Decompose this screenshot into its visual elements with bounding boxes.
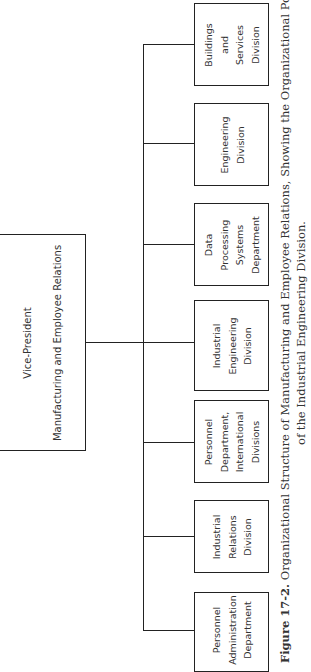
data-processing-systems-department-text: Data Processing Systems Department — [201, 216, 263, 274]
box-line: Processing — [216, 216, 232, 274]
branch-line-engineering — [143, 143, 194, 144]
box-line: Personnel — [201, 411, 217, 472]
box-line: Industrial — [208, 514, 224, 559]
branch-line-data-processing — [143, 244, 194, 245]
box-line: Services — [232, 23, 248, 67]
figure-label: Figure 17-2. — [278, 584, 292, 663]
branch-line-personnel-administration — [143, 630, 194, 631]
industrial-engineering-division-text: Industrial Engineering Division — [208, 317, 255, 374]
caption-line-1: Figure 17-2. Organizational Structure of… — [277, 3, 293, 663]
personnel-administration-department-box: Personnel Administration Department — [194, 592, 269, 672]
vice-president-text: Vice-President Manufacturing and Employe… — [13, 244, 73, 440]
vp-subtitle: Manufacturing and Employee Relations — [43, 244, 73, 440]
box-line: Divisions — [247, 411, 263, 472]
branch-line-personnel-international — [143, 442, 194, 443]
vice-president-box: Vice-President Manufacturing and Employe… — [0, 234, 86, 451]
personnel-administration-department-text: Personnel Administration Department — [208, 595, 255, 665]
figure-caption: Figure 17-2. Organizational Structure of… — [277, 3, 309, 663]
branch-line-buildings — [143, 44, 194, 45]
industrial-engineering-division-box: Industrial Engineering Division — [194, 300, 269, 391]
box-line: Department — [247, 216, 263, 274]
caption-line-2: of the Industrial Engineering Division. — [293, 3, 309, 663]
buildings-services-division-text: Buildings and Services Division — [201, 23, 263, 67]
box-line: Administration — [224, 595, 240, 665]
vp-connector-line — [86, 342, 144, 343]
vp-title: Vice-President — [13, 244, 43, 440]
box-line: Systems — [232, 216, 248, 274]
industrial-relations-division-box: Industrial Relations Division — [194, 500, 269, 573]
box-line: Engineering — [216, 116, 232, 173]
box-line: Industrial — [208, 317, 224, 374]
caption-text-1: Organizational Structure of Manufacturin… — [278, 0, 292, 580]
box-line: Buildings — [201, 23, 217, 67]
box-line: International — [232, 411, 248, 472]
box-line: Division — [239, 514, 255, 559]
box-line: Department, — [216, 411, 232, 472]
trunk-line — [143, 44, 144, 631]
box-line: Division — [232, 116, 248, 173]
box-line: Data — [201, 216, 217, 274]
box-line: Department — [239, 595, 255, 665]
engineering-division-box: Engineering Division — [194, 103, 269, 186]
data-processing-systems-department-box: Data Processing Systems Department — [194, 203, 269, 286]
personnel-department-international-divisions-text: Personnel Department, International Divi… — [201, 411, 263, 472]
engineering-division-text: Engineering Division — [216, 116, 247, 173]
box-line: Personnel — [208, 595, 224, 665]
personnel-department-international-divisions-box: Personnel Department, International Divi… — [194, 400, 269, 483]
industrial-relations-division-text: Industrial Relations Division — [208, 514, 255, 559]
box-line: and — [216, 23, 232, 67]
box-line: Engineering — [224, 317, 240, 374]
box-line: Division — [239, 317, 255, 374]
box-line: Relations — [224, 514, 240, 559]
box-line: Division — [247, 23, 263, 67]
branch-line-industrial-engineering — [143, 342, 194, 343]
buildings-services-division-box: Buildings and Services Division — [194, 3, 269, 86]
branch-line-industrial-relations — [143, 536, 194, 537]
